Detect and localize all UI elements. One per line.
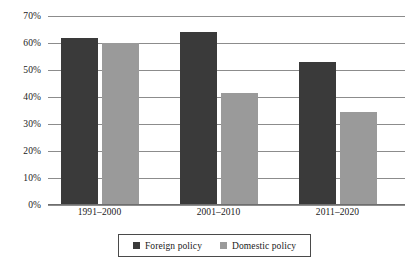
grid-area	[48, 16, 405, 205]
x-tick-label: 1991–2000	[78, 207, 122, 217]
legend-item-1: Domestic policy	[220, 241, 296, 251]
gridline	[48, 205, 405, 206]
y-tick-label: 10%	[23, 173, 41, 183]
y-tick-label: 30%	[23, 119, 41, 129]
y-tick-label: 60%	[23, 38, 41, 48]
legend-label: Domestic policy	[232, 241, 296, 251]
bar-0-1	[180, 32, 217, 205]
legend-label: Foreign policy	[145, 241, 202, 251]
bar-chart: 0%10%20%30%40%50%60%70% 1991–20002001–20…	[0, 0, 415, 271]
bar-1-2	[340, 112, 377, 205]
y-tick-label: 70%	[23, 11, 41, 21]
plot-area: 0%10%20%30%40%50%60%70%	[0, 0, 415, 215]
bar-1-1	[221, 93, 258, 205]
x-tick-label: 2011–2020	[316, 207, 359, 217]
y-tick-label: 20%	[23, 146, 41, 156]
y-tick-label: 50%	[23, 65, 41, 75]
bars-layer	[48, 16, 405, 205]
y-tick-label: 40%	[23, 92, 41, 102]
bar-0-0	[61, 38, 98, 205]
legend-swatch-icon	[133, 242, 140, 249]
y-axis: 0%10%20%30%40%50%60%70%	[0, 0, 44, 215]
y-tick-label: 0%	[28, 200, 41, 210]
x-axis-line	[48, 204, 405, 205]
chart-legend: Foreign policyDomestic policy	[118, 234, 311, 257]
bar-0-2	[299, 62, 336, 205]
legend-item-0: Foreign policy	[133, 241, 202, 251]
x-tick-label: 2001–2010	[197, 207, 241, 217]
bar-1-0	[102, 43, 139, 205]
x-axis: 1991–20002001–20102011–2020	[48, 207, 405, 225]
legend-swatch-icon	[220, 242, 227, 249]
